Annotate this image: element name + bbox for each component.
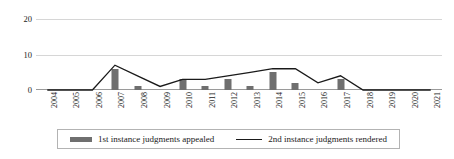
x-axis-tick-2013: 2013 [254, 92, 262, 108]
legend-label-bar-series: 1st instance judgments appealed [98, 135, 214, 144]
x-axis-tick-2019: 2019 [389, 92, 397, 108]
x-axis-tick-2011: 2011 [209, 92, 217, 108]
chart-legend: 1st instance judgments appealed 2nd inst… [57, 129, 400, 149]
legend-label-line-series: 2nd instance judgments rendered [268, 135, 387, 144]
y-axis-tick-20: 20 [0, 15, 32, 24]
x-axis-tick-2009: 2009 [164, 92, 172, 108]
x-axis-tick-2004: 2004 [51, 92, 59, 108]
line-series-path [47, 65, 430, 90]
x-axis-labels: 2004200520062007200820092010201120122013… [36, 92, 442, 122]
x-axis-tick-2018: 2018 [367, 92, 375, 108]
line-swatch-icon [236, 139, 262, 140]
x-axis-tick-2016: 2016 [321, 92, 329, 108]
chart-container: 01020 2004200520062007200820092010201120… [0, 0, 454, 159]
line-series-svg [36, 12, 442, 90]
x-axis-tick-2020: 2020 [412, 92, 420, 108]
line-series-layer [36, 12, 442, 90]
bar-swatch-icon [70, 137, 92, 142]
x-axis-tick-2017: 2017 [344, 92, 352, 108]
y-axis-labels: 01020 [0, 12, 32, 90]
y-axis-tick-10: 10 [0, 50, 32, 59]
x-axis-tick-2021: 2021 [434, 92, 442, 108]
legend-item-bar-series: 1st instance judgments appealed [70, 135, 214, 144]
x-axis-tick-2006: 2006 [96, 92, 104, 108]
x-axis-tick-2007: 2007 [118, 92, 126, 108]
x-axis-tick-2010: 2010 [186, 92, 194, 108]
x-axis-tick-2012: 2012 [231, 92, 239, 108]
x-axis-tick-2014: 2014 [276, 92, 284, 108]
x-axis-tick-2015: 2015 [299, 92, 307, 108]
y-axis-tick-0: 0 [0, 86, 32, 95]
x-axis-tick-2008: 2008 [141, 92, 149, 108]
plot-area [36, 12, 442, 90]
x-axis-tick-2005: 2005 [73, 92, 81, 108]
legend-item-line-series: 2nd instance judgments rendered [236, 135, 387, 144]
